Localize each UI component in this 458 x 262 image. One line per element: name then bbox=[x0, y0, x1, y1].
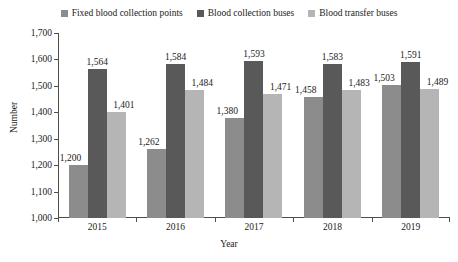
bar: 1,489 bbox=[420, 89, 439, 218]
bar: 1,591 bbox=[401, 62, 420, 218]
bar-group: 1,4581,5831,483 bbox=[293, 33, 371, 218]
y-axis-tick-label: 1,500 bbox=[31, 81, 52, 91]
bar-value-label: 1,471 bbox=[270, 82, 291, 93]
legend-swatch-blood-collection-buses bbox=[197, 10, 204, 17]
bar: 1,564 bbox=[88, 69, 107, 218]
bar-group: 1,3801,5931,471 bbox=[215, 33, 293, 218]
legend-item-label: Blood transfer buses bbox=[319, 8, 397, 18]
bar-value-label: 1,503 bbox=[373, 73, 394, 84]
y-axis-tick-label: 1,200 bbox=[31, 160, 52, 170]
bar-value-label: 1,591 bbox=[400, 50, 421, 61]
bar: 1,584 bbox=[166, 64, 185, 218]
legend-item-label: Blood collection buses bbox=[208, 8, 295, 18]
x-axis-tick-labels: 20152016201720182019 bbox=[58, 221, 450, 235]
bar-value-label: 1,200 bbox=[60, 153, 81, 164]
bar-group: 1,2001,5641,401 bbox=[58, 33, 136, 218]
bar: 1,471 bbox=[263, 94, 282, 218]
bar: 1,484 bbox=[185, 90, 204, 218]
bar-value-label: 1,489 bbox=[427, 77, 448, 88]
bar: 1,262 bbox=[147, 149, 166, 218]
y-axis-tick-label: 1,600 bbox=[31, 54, 52, 64]
x-axis-title: Year bbox=[0, 239, 458, 250]
bar: 1,483 bbox=[342, 90, 361, 218]
bar: 1,593 bbox=[244, 61, 263, 218]
plot-area: 1,0001,1001,2001,3001,4001,5001,6001,700… bbox=[58, 33, 450, 218]
bar-value-label: 1,583 bbox=[322, 52, 343, 63]
bar-value-label: 1,262 bbox=[138, 137, 159, 148]
bar-group: 1,2621,5841,484 bbox=[136, 33, 214, 218]
y-axis-tick-label: 1,300 bbox=[31, 134, 52, 144]
bar: 1,503 bbox=[382, 85, 401, 218]
legend-swatch-blood-transfer-buses bbox=[308, 10, 315, 17]
y-axis-tick-label: 1,400 bbox=[31, 107, 52, 117]
bar-value-label: 1,401 bbox=[113, 100, 134, 111]
legend-item: Fixed blood collection points bbox=[61, 8, 183, 18]
bar-value-label: 1,380 bbox=[217, 106, 238, 117]
bar: 1,200 bbox=[69, 165, 88, 218]
y-axis-tick-label: 1,000 bbox=[31, 213, 52, 223]
bar-value-label: 1,564 bbox=[87, 57, 108, 68]
bar: 1,380 bbox=[225, 118, 244, 218]
x-axis-tick-label: 2017 bbox=[245, 221, 264, 233]
bar-value-label: 1,483 bbox=[348, 78, 369, 89]
y-axis-tick-label: 1,100 bbox=[31, 187, 52, 197]
legend-swatch-fixed-blood-collection-points bbox=[61, 10, 68, 17]
bar-value-label: 1,484 bbox=[192, 78, 213, 89]
y-axis-title: Number bbox=[9, 88, 20, 148]
y-axis-tick-label: 1,700 bbox=[31, 28, 52, 38]
bar-chart-figure: Fixed blood collection pointsBlood colle… bbox=[0, 0, 458, 262]
legend-item: Blood collection buses bbox=[197, 8, 295, 18]
bar: 1,583 bbox=[323, 64, 342, 218]
chart-legend: Fixed blood collection pointsBlood colle… bbox=[0, 8, 458, 18]
bar-group: 1,5031,5911,489 bbox=[372, 33, 450, 218]
bar: 1,401 bbox=[107, 112, 126, 218]
bar-value-label: 1,593 bbox=[243, 49, 264, 60]
x-axis-tick-label: 2016 bbox=[166, 221, 185, 233]
legend-item-label: Fixed blood collection points bbox=[72, 8, 183, 18]
bar: 1,458 bbox=[304, 97, 323, 218]
bar-value-label: 1,584 bbox=[165, 52, 186, 63]
x-axis-tick-label: 2015 bbox=[88, 221, 107, 233]
legend-item: Blood transfer buses bbox=[308, 8, 397, 18]
bar-value-label: 1,458 bbox=[295, 85, 316, 96]
x-axis-tick-label: 2018 bbox=[323, 221, 342, 233]
x-axis-tick-label: 2019 bbox=[401, 221, 420, 233]
